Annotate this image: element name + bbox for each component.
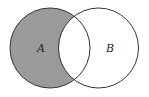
- label-b: B: [105, 42, 114, 55]
- label-a: A: [36, 42, 45, 55]
- venn-diagram: A B: [0, 0, 149, 97]
